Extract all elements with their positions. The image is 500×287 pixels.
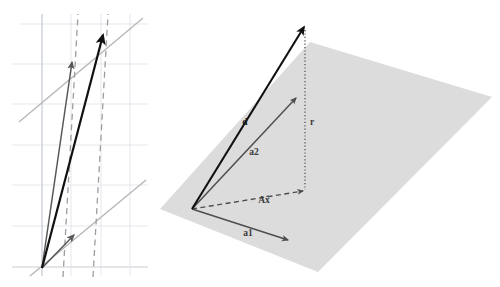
figure-root: d a2 a1 Ax̂ r — [0, 0, 500, 287]
left-panel — [12, 14, 148, 277]
label-a2: a2 — [249, 147, 259, 157]
label-a1: a1 — [243, 228, 253, 238]
figure-canvas: d a2 a1 Ax̂ r — [0, 0, 500, 287]
label-d: d — [242, 117, 248, 127]
left-long-gray-vector — [42, 62, 72, 268]
label-a-x-hat: Ax̂ — [258, 195, 270, 205]
right-panel: d a2 a1 Ax̂ r — [160, 27, 492, 272]
parallel-solid-lines — [19, 18, 146, 276]
column-space-plane — [160, 42, 492, 272]
left-black-resultant-vector — [42, 35, 103, 268]
